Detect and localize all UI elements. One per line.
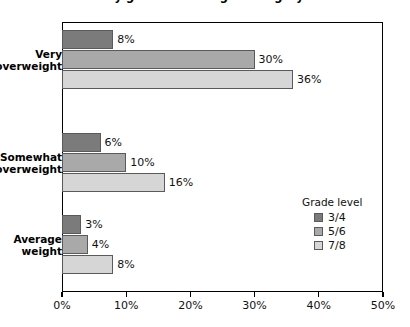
bar-value-label: 30% (259, 50, 283, 69)
bar-value-label: 8% (117, 255, 134, 274)
bar (62, 173, 165, 192)
category-label: Averageweight (0, 233, 62, 257)
x-axis-tick-label: 50% (353, 299, 410, 312)
bar-value-label: 3% (85, 215, 102, 234)
category-label: Veryoverweight (0, 48, 62, 72)
category-label: Somewhatoverweight (0, 151, 62, 175)
bar-value-label: 10% (130, 153, 154, 172)
legend: Grade level 3/45/67/8 (296, 196, 396, 254)
x-axis-tick-label: 0% (32, 299, 92, 312)
legend-item[interactable]: 5/6 (314, 226, 396, 237)
legend-swatch-icon (314, 241, 323, 250)
bar-chart: by grade and weight category Veryoverwei… (0, 0, 410, 327)
category-label-line: overweight (0, 60, 62, 72)
category-label-line: overweight (0, 163, 62, 175)
bar (62, 30, 113, 49)
category-label-line: Somewhat (0, 151, 62, 163)
legend-item-label: 3/4 (328, 212, 346, 223)
x-axis-tick-label: 20% (160, 299, 220, 312)
bar (62, 255, 113, 274)
legend-swatch-icon (314, 213, 323, 222)
category-label-line: Very (0, 48, 62, 60)
bar (62, 153, 126, 172)
bar-value-label: 8% (117, 30, 134, 49)
legend-item-label: 5/6 (328, 226, 346, 237)
category-label-line: weight (0, 245, 62, 257)
bar (62, 235, 88, 254)
bar-value-label: 36% (297, 70, 321, 89)
x-axis-tick (382, 292, 383, 297)
bar (62, 133, 101, 152)
bar (62, 215, 81, 234)
legend-title: Grade level (302, 196, 396, 208)
x-axis-tick-label: 10% (96, 299, 156, 312)
legend-item[interactable]: 3/4 (314, 212, 396, 223)
category-label-line: Average (0, 233, 62, 245)
bar (62, 50, 255, 69)
x-axis-tick (254, 292, 255, 297)
x-axis-tick-label: 40% (289, 299, 349, 312)
legend-item[interactable]: 7/8 (314, 240, 396, 251)
bar-value-label: 4% (92, 235, 109, 254)
x-axis-tick (190, 292, 191, 297)
bar-value-label: 16% (169, 173, 193, 192)
x-axis-tick (126, 292, 127, 297)
bar-value-label: 6% (105, 133, 122, 152)
legend-entries: 3/45/67/8 (296, 212, 396, 251)
x-axis-tick (318, 292, 319, 297)
x-axis-tick (61, 292, 62, 297)
legend-swatch-icon (314, 227, 323, 236)
bar (62, 70, 293, 89)
x-axis-tick-label: 30% (225, 299, 285, 312)
legend-item-label: 7/8 (328, 240, 346, 251)
chart-title: by grade and weight category (0, 0, 410, 5)
